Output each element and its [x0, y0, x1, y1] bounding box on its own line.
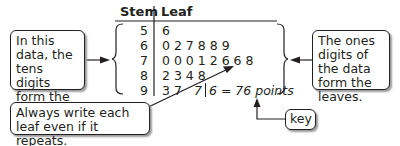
leaf-values: 2 3 4 8	[162, 68, 206, 83]
leaf-values: 6	[162, 23, 170, 38]
callout-key: key	[285, 109, 316, 130]
callout-stems: In this data, the tens digits form the s…	[10, 30, 85, 90]
stem-value: 7	[134, 53, 148, 68]
stem-header: Stem	[120, 4, 158, 19]
stem-value: 9	[134, 83, 148, 98]
key-stem: 7	[194, 83, 202, 98]
stem-value: 8	[134, 68, 148, 83]
callout-leaves: The ones digits of the data form the lea…	[312, 30, 390, 90]
callout-repeat: Always write each leaf even if it repeat…	[10, 102, 150, 135]
leaf-values: 3 7	[162, 83, 182, 98]
key-divider	[205, 83, 206, 97]
leaf-values: 0 2 7 8 8 9	[162, 38, 230, 53]
stem-value: 5	[134, 23, 148, 38]
leaf-header: Leaf	[161, 4, 193, 19]
leaf-values: 0 0 0 1 2 6 6 8	[162, 53, 253, 68]
key-leaf: 6 = 76 points	[209, 83, 294, 98]
stem-value: 6	[134, 38, 148, 53]
